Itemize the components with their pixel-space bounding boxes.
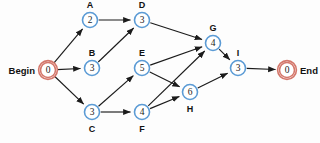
- node-end-value: 0: [285, 65, 290, 75]
- edge-begin-to-c: [54, 76, 83, 104]
- node-a-value: 2: [88, 15, 93, 25]
- edge-begin-to-b: [57, 69, 81, 70]
- node-begin-value: 0: [46, 65, 51, 75]
- node-c[interactable]: 3C: [85, 105, 100, 134]
- node-begin[interactable]: 0Begin: [9, 61, 58, 80]
- node-d-label: D: [139, 0, 146, 10]
- node-a-label: A: [87, 0, 94, 10]
- edge-g-to-i: [219, 49, 230, 60]
- edge-c-to-e: [99, 76, 134, 107]
- node-b[interactable]: 3B: [85, 48, 100, 76]
- network-diagram-canvas: 2A3D3B5E4G3I6H3C4F0Begin0End: [0, 0, 320, 143]
- network-diagram: 2A3D3B5E4G3I6H3C4F0Begin0End: [0, 0, 320, 143]
- node-a[interactable]: 2A: [83, 0, 98, 28]
- node-g[interactable]: 4G: [206, 23, 221, 51]
- node-e-label: E: [139, 48, 145, 58]
- node-c-label: C: [89, 124, 96, 134]
- edge-d-to-g: [150, 23, 202, 40]
- edge-f-to-h: [150, 96, 179, 108]
- node-b-value: 3: [90, 63, 95, 73]
- node-h-label: H: [187, 104, 194, 114]
- node-i-value: 3: [236, 63, 241, 73]
- node-e[interactable]: 5E: [135, 48, 150, 76]
- begin-label: Begin: [9, 65, 36, 76]
- node-f[interactable]: 4F: [135, 105, 150, 134]
- node-b-label: B: [89, 48, 96, 58]
- node-f-value: 4: [140, 107, 145, 117]
- edge-h-to-i: [198, 73, 228, 88]
- end-label: End: [300, 65, 318, 76]
- edge-i-to-end: [247, 68, 276, 69]
- edge-begin-to-a: [54, 29, 83, 64]
- node-e-value: 5: [140, 63, 145, 73]
- node-d[interactable]: 3D: [135, 0, 150, 28]
- node-d-value: 3: [140, 15, 145, 25]
- node-h-value: 6: [188, 87, 193, 97]
- node-g-value: 4: [211, 38, 216, 48]
- node-h[interactable]: 6H: [183, 85, 198, 114]
- node-g-label: G: [209, 23, 216, 33]
- node-i-label: I: [237, 48, 240, 58]
- edge-b-to-d: [98, 28, 133, 62]
- node-f-label: F: [139, 124, 145, 134]
- node-layer: 2A3D3B5E4G3I6H3C4F0Begin0End: [9, 0, 319, 134]
- node-c-value: 3: [90, 107, 95, 117]
- edge-e-to-g: [150, 47, 202, 65]
- node-end[interactable]: 0End: [278, 61, 319, 80]
- node-i[interactable]: 3I: [231, 48, 246, 76]
